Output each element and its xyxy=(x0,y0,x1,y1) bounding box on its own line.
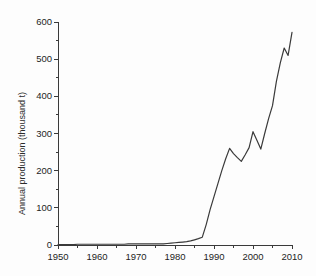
y-tick-label: 200 xyxy=(22,165,52,176)
y-tick-label: 500 xyxy=(22,53,52,64)
y-tick-label: 400 xyxy=(22,90,52,101)
x-tick-label: 1990 xyxy=(194,251,234,262)
data-series-group xyxy=(58,32,292,244)
x-tick-label: 1980 xyxy=(155,251,195,262)
x-tick-label: 2010 xyxy=(272,251,312,262)
x-tick-label: 1960 xyxy=(77,251,117,262)
y-tick-label: 0 xyxy=(22,239,52,250)
x-tick-label: 1970 xyxy=(116,251,156,262)
x-tick-label: 1950 xyxy=(38,251,78,262)
axes-group xyxy=(58,22,292,245)
chart-container: Annual production (thousand t) 010020030… xyxy=(0,0,316,276)
y-tick-label: 600 xyxy=(22,16,52,27)
y-tick-label: 100 xyxy=(22,202,52,213)
tick-marks-group xyxy=(54,22,292,249)
series-line-0 xyxy=(58,32,292,244)
y-tick-label: 300 xyxy=(22,128,52,139)
x-tick-label: 2000 xyxy=(233,251,273,262)
